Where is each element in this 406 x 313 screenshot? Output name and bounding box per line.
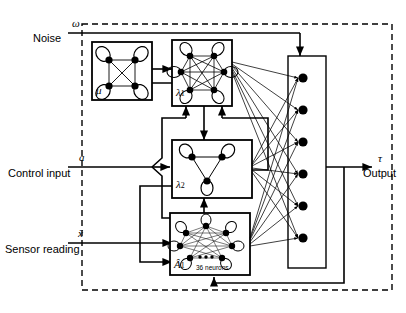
block-label-ahat-sub: 1 (181, 261, 185, 270)
ahat-neuron-count: 36 neurons (196, 264, 229, 271)
link-lambda2-ahat (140, 186, 172, 262)
block-label-lambda2: λ2 (176, 178, 185, 190)
input-label-control: Control input (8, 167, 70, 179)
block-label-lambda1-sub: 1 (181, 89, 185, 98)
block-label-mu: μ (96, 84, 102, 96)
output-symbol: τ (378, 152, 382, 164)
input-label-sensor: Sensor reading (5, 243, 80, 255)
block-label-lambda2-sub: 2 (181, 181, 185, 190)
input-symbol-sensor: ẍ (78, 227, 83, 239)
block-label-ahat-text: Â (174, 258, 181, 270)
figure-canvas: ω Noise a Control input ẍ Sensor reading… (0, 0, 406, 313)
block-label-lambda1: λ1 (176, 86, 185, 98)
input-symbol-control: a (79, 151, 85, 163)
block-label-ahat: Â1 (174, 258, 185, 270)
output-label: Output (363, 167, 396, 179)
input-line-control (68, 106, 186, 218)
input-label-noise: Noise (33, 32, 61, 44)
input-symbol-noise: ω (72, 17, 80, 29)
